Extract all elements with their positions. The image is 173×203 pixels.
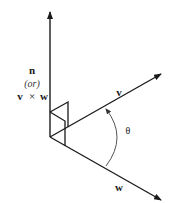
- cross-operator-label: ×: [29, 90, 35, 102]
- vector-v: [50, 74, 161, 137]
- vector-v-label: v: [116, 86, 122, 98]
- cross-right-label: w: [40, 90, 48, 102]
- vector-w-label: w: [115, 181, 123, 193]
- angle-theta-label: θ: [126, 125, 131, 136]
- vector-w: [50, 137, 161, 200]
- cross-product-diagram: n (or) v × w v w θ: [0, 0, 173, 203]
- angle-arc: [106, 109, 117, 166]
- or-label: (or): [24, 78, 40, 90]
- cross-left-label: v: [17, 90, 23, 102]
- normal-label: n: [29, 64, 35, 76]
